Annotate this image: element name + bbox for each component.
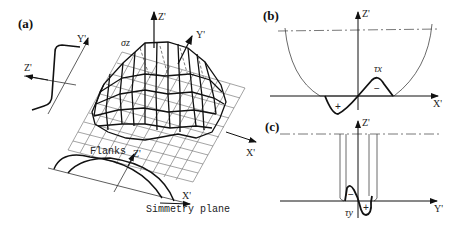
bottom-x-axis-label: X' — [182, 190, 191, 201]
z-axis-label: Z' — [362, 8, 370, 19]
stress-surface-wireframe — [92, 42, 226, 140]
panel-b: (b) Z' X' τx + − — [263, 8, 442, 114]
minus-sign: − — [374, 83, 380, 94]
minus-sign: − — [348, 189, 354, 200]
x-axis-label: X' — [433, 98, 442, 109]
panel-c: (c) Z' Y' τy − + — [265, 117, 443, 218]
symmetry-plane-label: Simmetry plane — [146, 204, 230, 215]
tau-x-label: τx — [374, 63, 383, 74]
sigma-z-label: σz — [121, 37, 130, 48]
y-axis-label: Y' — [196, 29, 205, 40]
bottom-z-axis-label: Z' — [133, 148, 141, 159]
side-profile: Y' Z' — [24, 33, 88, 114]
x-axis-label: X' — [246, 147, 255, 158]
panel-b-label: (b) — [263, 8, 279, 23]
z-axis-label: Z' — [362, 117, 370, 128]
x-axis — [226, 132, 256, 142]
z-axis-label: Z' — [158, 11, 166, 22]
panel-a: (a) Y' Z' — [18, 11, 256, 215]
tau-y-label: τy — [345, 207, 354, 218]
panel-c-label: (c) — [265, 119, 279, 134]
flanks-label: Flanks — [90, 146, 126, 157]
plus-sign: + — [363, 202, 369, 213]
dash-dot-line — [278, 29, 440, 31]
side-z-axis-label: Z' — [24, 62, 32, 73]
side-y-axis-label: Y' — [77, 33, 86, 44]
cross-section: Flanks Z' X' Simmetry plane — [48, 146, 230, 215]
plus-sign: + — [335, 101, 341, 112]
y-axis-label: Y' — [434, 203, 443, 214]
figure: (a) Y' Z' — [0, 0, 459, 231]
panel-a-label: (a) — [18, 16, 33, 31]
